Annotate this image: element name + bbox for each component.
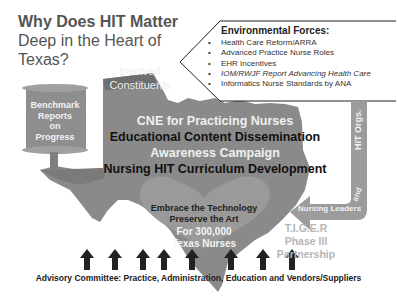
hit-orgs-label: HIT Orgs. (353, 109, 363, 150)
environmental-forces-list: •Health Care Reform/ARRA •Advanced Pract… (208, 38, 371, 89)
env-force-item: •Health Care Reform/ARRA (208, 38, 371, 48)
nursing-leaders-label: Nursing Leaders (298, 204, 361, 213)
environmental-forces-heading: Environmental Forces: (221, 25, 329, 36)
tiger-partnership-label: T.I.G.E.R Phase III Partnership (266, 222, 346, 261)
env-force-item: •EHR Incentives (208, 59, 371, 69)
awareness-campaign: Awareness Campaign (80, 146, 350, 160)
involved-constituents-label: Involved Constituents (101, 64, 179, 92)
heart-line-preserve: Preserve the Art (138, 214, 270, 224)
env-force-item: •IOM/RWJF Report Advancing Health Care (208, 69, 371, 79)
heart-line-texas-nurses: Texas Nurses (138, 238, 270, 249)
nursing-hit-curriculum: Nursing HIT Curriculum Development (80, 162, 350, 176)
heart-line-300000: For 300,000 (138, 226, 270, 237)
env-force-item: •Advanced Practice Nurse Roles (208, 48, 371, 58)
env-force-item: •Informatics Nurse Standards by ANA (208, 79, 371, 89)
advisory-committee-label: Advisory Committee: Practice, Administra… (0, 273, 397, 283)
heart-line-embrace: Embrace the Technology (138, 203, 270, 213)
educational-content-dissemination: Educational Content Dissemination (80, 130, 350, 144)
cne-practicing-nurses: CNE for Practicing Nurses (80, 114, 350, 128)
